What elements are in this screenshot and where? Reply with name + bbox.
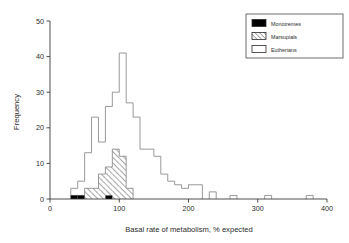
- bar-marsupials: [98, 174, 105, 199]
- y-tick-label: 10: [36, 159, 44, 168]
- bar-eutherians: [168, 181, 175, 199]
- legend-label-monotremes: Monotremes: [271, 21, 301, 27]
- x-tick-label: 0: [48, 204, 52, 213]
- bar-eutherians: [306, 195, 313, 199]
- bar-marsupials: [92, 188, 99, 199]
- bar-monotremes: [78, 195, 85, 199]
- bar-marsupials: [112, 149, 119, 199]
- bar-marsupials: [85, 188, 92, 199]
- bar-monotremes: [71, 195, 78, 199]
- bar-eutherians: [209, 192, 216, 199]
- y-tick-label: 40: [36, 52, 44, 61]
- bar-eutherians: [175, 185, 182, 199]
- histogram-figure: 01020304050 0100200300400 Frequency Basa…: [0, 0, 349, 243]
- y-tick-label: 0: [40, 195, 44, 204]
- x-tick-label: 200: [183, 204, 195, 213]
- bar-eutherians: [154, 156, 161, 199]
- histogram-svg: 01020304050 0100200300400 Frequency Basa…: [0, 0, 349, 243]
- bar-eutherians: [189, 185, 196, 199]
- legend-swatch-monotremes: [252, 20, 266, 27]
- bar-eutherians: [182, 188, 189, 199]
- bar-eutherians: [265, 195, 272, 199]
- legend-label-marsupials: Marsupials: [271, 34, 297, 40]
- bar-eutherians: [161, 174, 168, 199]
- x-tick-label: 300: [252, 204, 264, 213]
- bar-eutherians: [92, 117, 99, 199]
- x-axis-title: Basal rate of metabolism, % expected: [125, 225, 252, 234]
- legend: Monotremes Marsupials Eutherians: [246, 14, 343, 58]
- y-tick-label: 20: [36, 123, 44, 132]
- bar-eutherians: [147, 149, 154, 199]
- legend-swatch-marsupials: [252, 33, 266, 40]
- y-axis-title: Frequency: [12, 94, 21, 130]
- bar-marsupials: [105, 167, 112, 199]
- legend-swatch-eutherians: [252, 46, 266, 53]
- bar-eutherians: [133, 117, 140, 199]
- x-tick-label: 400: [321, 204, 333, 213]
- bar-marsupials: [126, 188, 133, 199]
- x-tick-label: 100: [113, 204, 125, 213]
- legend-label-eutherians: Eutherians: [271, 47, 297, 53]
- y-tick-label: 30: [36, 88, 44, 97]
- bar-monotremes: [105, 195, 112, 199]
- bar-eutherians: [126, 103, 133, 199]
- bar-eutherians: [140, 149, 147, 199]
- bar-eutherians: [230, 195, 237, 199]
- y-tick-label: 50: [36, 17, 44, 26]
- bar-marsupials: [119, 156, 126, 199]
- bar-eutherians: [195, 185, 202, 199]
